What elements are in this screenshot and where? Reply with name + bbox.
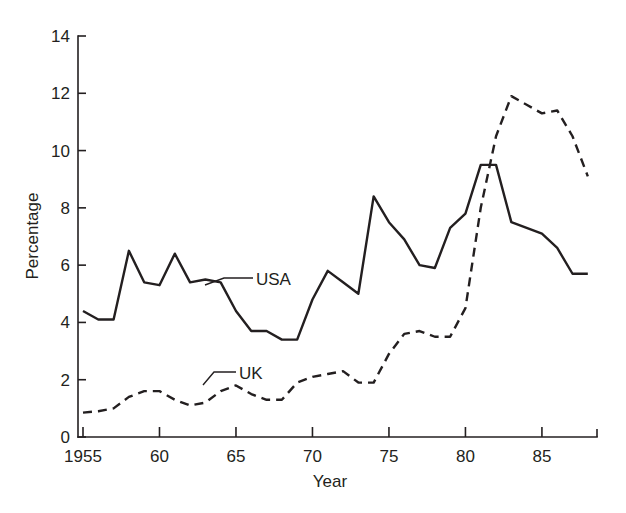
x-axis-title: Year xyxy=(313,472,348,491)
axis-group xyxy=(78,36,597,437)
x-tick-labels: 1955606570758085 xyxy=(64,447,551,466)
x-tick-label: 60 xyxy=(150,447,169,466)
x-tick-label: 75 xyxy=(379,447,398,466)
series-group xyxy=(83,96,588,413)
usa-series-label: USA xyxy=(256,270,292,289)
y-tick-label: 6 xyxy=(61,256,70,275)
y-tick-label: 10 xyxy=(51,142,70,161)
x-tick-label: 65 xyxy=(227,447,246,466)
series-line-uk xyxy=(83,96,588,413)
y-tick-marks xyxy=(78,36,86,437)
y-tick-label: 12 xyxy=(51,84,70,103)
x-tick-label: 85 xyxy=(532,447,551,466)
y-tick-labels: 02468101214 xyxy=(51,27,70,447)
uk-annotation: UK xyxy=(203,364,263,385)
y-tick-label: 2 xyxy=(61,371,70,390)
y-tick-label: 0 xyxy=(61,428,70,447)
y-tick-label: 4 xyxy=(61,313,70,332)
x-tick-marks xyxy=(83,427,542,437)
x-tick-label: 70 xyxy=(303,447,322,466)
uk-series-label: UK xyxy=(239,364,263,383)
chart-figure: 02468101214 1955606570758085 Percentage … xyxy=(0,0,626,513)
uk-leader-line xyxy=(203,372,236,385)
line-chart: 02468101214 1955606570758085 Percentage … xyxy=(0,0,626,513)
y-tick-label: 8 xyxy=(61,199,70,218)
y-axis-title: Percentage xyxy=(23,193,42,280)
series-line-usa xyxy=(83,165,588,340)
x-tick-label: 1955 xyxy=(64,447,102,466)
y-tick-label: 14 xyxy=(51,27,70,46)
x-tick-label: 80 xyxy=(456,447,475,466)
usa-annotation: USA xyxy=(205,270,292,289)
